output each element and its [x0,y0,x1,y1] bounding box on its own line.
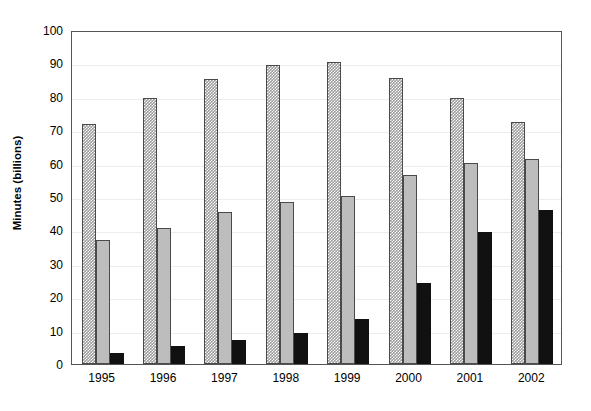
bar-group [379,32,440,364]
bar [110,353,124,364]
bar [294,333,308,364]
bar [525,159,539,364]
bar [511,122,525,364]
bar [355,319,369,364]
chart-root: Minutes (billions) 010203040506070809010… [0,0,591,411]
x-axis-tick-label: 1995 [88,371,115,385]
bar [389,78,403,364]
bar [171,346,185,364]
bar [204,79,218,364]
y-axis-tick-labels: 0102030405060708090100 [34,0,67,411]
bar [157,228,171,364]
bars-layer [72,32,561,364]
y-axis-tick-label: 80 [50,91,63,105]
x-axis-tick-label: 1999 [334,371,361,385]
x-axis-tick-label: 2000 [395,371,422,385]
y-axis-title: Minutes (billions) [0,0,34,365]
bar [266,65,280,364]
x-axis-tick-label: 1998 [272,371,299,385]
bar [82,124,96,364]
y-axis-tick-label: 100 [43,24,63,38]
bar-group [318,32,379,364]
bar-group [256,32,317,364]
bar-group [195,32,256,364]
x-axis-tick-label: 2001 [457,371,484,385]
bar [450,98,464,364]
bar [341,196,355,364]
bar [232,340,246,364]
bar [327,62,341,364]
bar [96,240,110,364]
bar-group [502,32,562,364]
bar [478,232,492,364]
y-axis-tick-label: 20 [50,291,63,305]
bar-group [133,32,194,364]
bar-group [440,32,501,364]
x-axis-tick-labels: 19951996199719981999200020012002 [71,371,562,393]
bar [417,283,431,364]
plot-area [71,31,562,365]
y-axis-tick-label: 50 [50,191,63,205]
bar [539,210,553,364]
y-axis-tick-label: 40 [50,224,63,238]
y-axis-tick-label: 10 [50,325,63,339]
bar [218,212,232,364]
y-axis-tick-label: 0 [56,358,63,372]
x-axis-tick-label: 2002 [518,371,545,385]
bar-group [72,32,133,364]
bar [143,98,157,364]
y-axis-tick-label: 60 [50,158,63,172]
y-axis-tick-label: 90 [50,57,63,71]
bar [464,163,478,364]
bar [280,202,294,364]
y-axis-tick-label: 30 [50,258,63,272]
x-axis-tick-label: 1997 [211,371,238,385]
y-axis-title-label: Minutes (billions) [11,135,23,230]
x-axis-tick-label: 1996 [150,371,177,385]
y-axis-tick-label: 70 [50,124,63,138]
bar [403,175,417,364]
